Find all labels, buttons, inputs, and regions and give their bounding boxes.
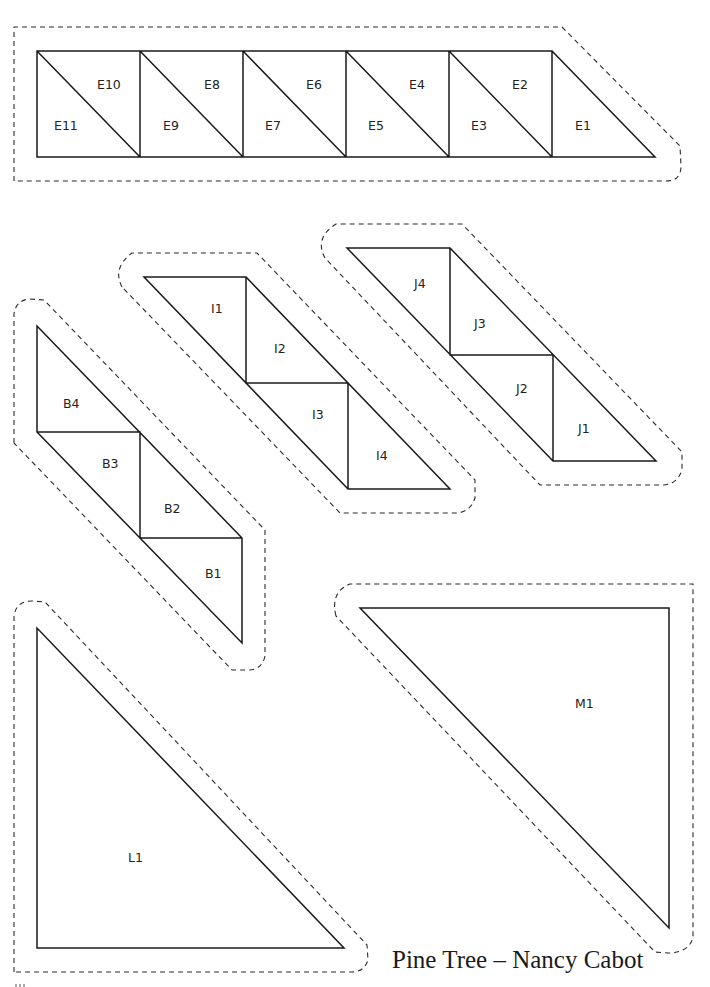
label-l1: L1 xyxy=(128,850,143,865)
label-e10: E10 xyxy=(97,77,121,92)
label-b4: B4 xyxy=(63,396,80,411)
seam-allowance-l xyxy=(14,601,368,972)
cut-line-b xyxy=(37,326,242,643)
pattern-title: Pine Tree – Nancy Cabot xyxy=(392,946,643,974)
pattern-pieces-diagram: E10 E11 E8 E9 E6 E7 E4 E5 E2 E3 E1 I1 I2… xyxy=(0,0,710,987)
label-i1: I1 xyxy=(211,301,223,316)
label-e1: E1 xyxy=(575,118,591,133)
label-b3: B3 xyxy=(102,456,119,471)
quilt-template-page: E10 E11 E8 E9 E6 E7 E4 E5 E2 E3 E1 I1 I2… xyxy=(0,0,710,987)
label-e8: E8 xyxy=(204,77,220,92)
label-i3: I3 xyxy=(312,407,324,422)
label-e9: E9 xyxy=(163,118,179,133)
label-i2: I2 xyxy=(274,341,286,356)
label-j2: J2 xyxy=(515,381,528,396)
seam-allowance-e xyxy=(14,27,681,181)
cut-line-l xyxy=(37,628,344,948)
label-e2: E2 xyxy=(512,77,528,92)
label-j3: J3 xyxy=(473,316,486,331)
label-m1: M1 xyxy=(575,696,594,711)
label-e6: E6 xyxy=(306,77,322,92)
label-e7: E7 xyxy=(265,118,281,133)
piece-group-i: I1 I2 I3 I4 xyxy=(119,253,475,513)
label-b1: B1 xyxy=(205,566,222,581)
label-j4: J4 xyxy=(413,276,426,291)
label-e11: E11 xyxy=(54,118,78,133)
cut-line-m xyxy=(360,608,669,928)
label-i4: I4 xyxy=(376,448,388,463)
piece-group-l: L1 xyxy=(14,601,368,972)
piece-group-j: J4 J3 J2 J1 xyxy=(321,224,682,485)
piece-group-b: B4 B3 B2 B1 xyxy=(14,299,265,670)
label-e3: E3 xyxy=(471,118,487,133)
piece-group-m: M1 xyxy=(335,584,693,953)
label-j1: J1 xyxy=(577,421,590,436)
cut-line-e xyxy=(37,51,655,157)
cut-line-i xyxy=(144,277,450,489)
piece-group-e: E10 E11 E8 E9 E6 E7 E4 E5 E2 E3 E1 xyxy=(14,27,681,181)
label-e4: E4 xyxy=(409,77,425,92)
label-b2: B2 xyxy=(164,501,181,516)
label-e5: E5 xyxy=(368,118,384,133)
